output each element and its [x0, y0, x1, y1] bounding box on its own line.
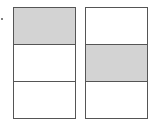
left-rectangle: [13, 7, 76, 119]
right-rectangle: [85, 7, 148, 119]
right-part-1: [86, 8, 147, 44]
left-part-3: [14, 81, 75, 118]
marker-dot: [1, 18, 3, 20]
left-part-2: [14, 44, 75, 81]
right-part-3: [86, 81, 147, 118]
right-part-2: [86, 44, 147, 81]
left-part-1: [14, 8, 75, 44]
